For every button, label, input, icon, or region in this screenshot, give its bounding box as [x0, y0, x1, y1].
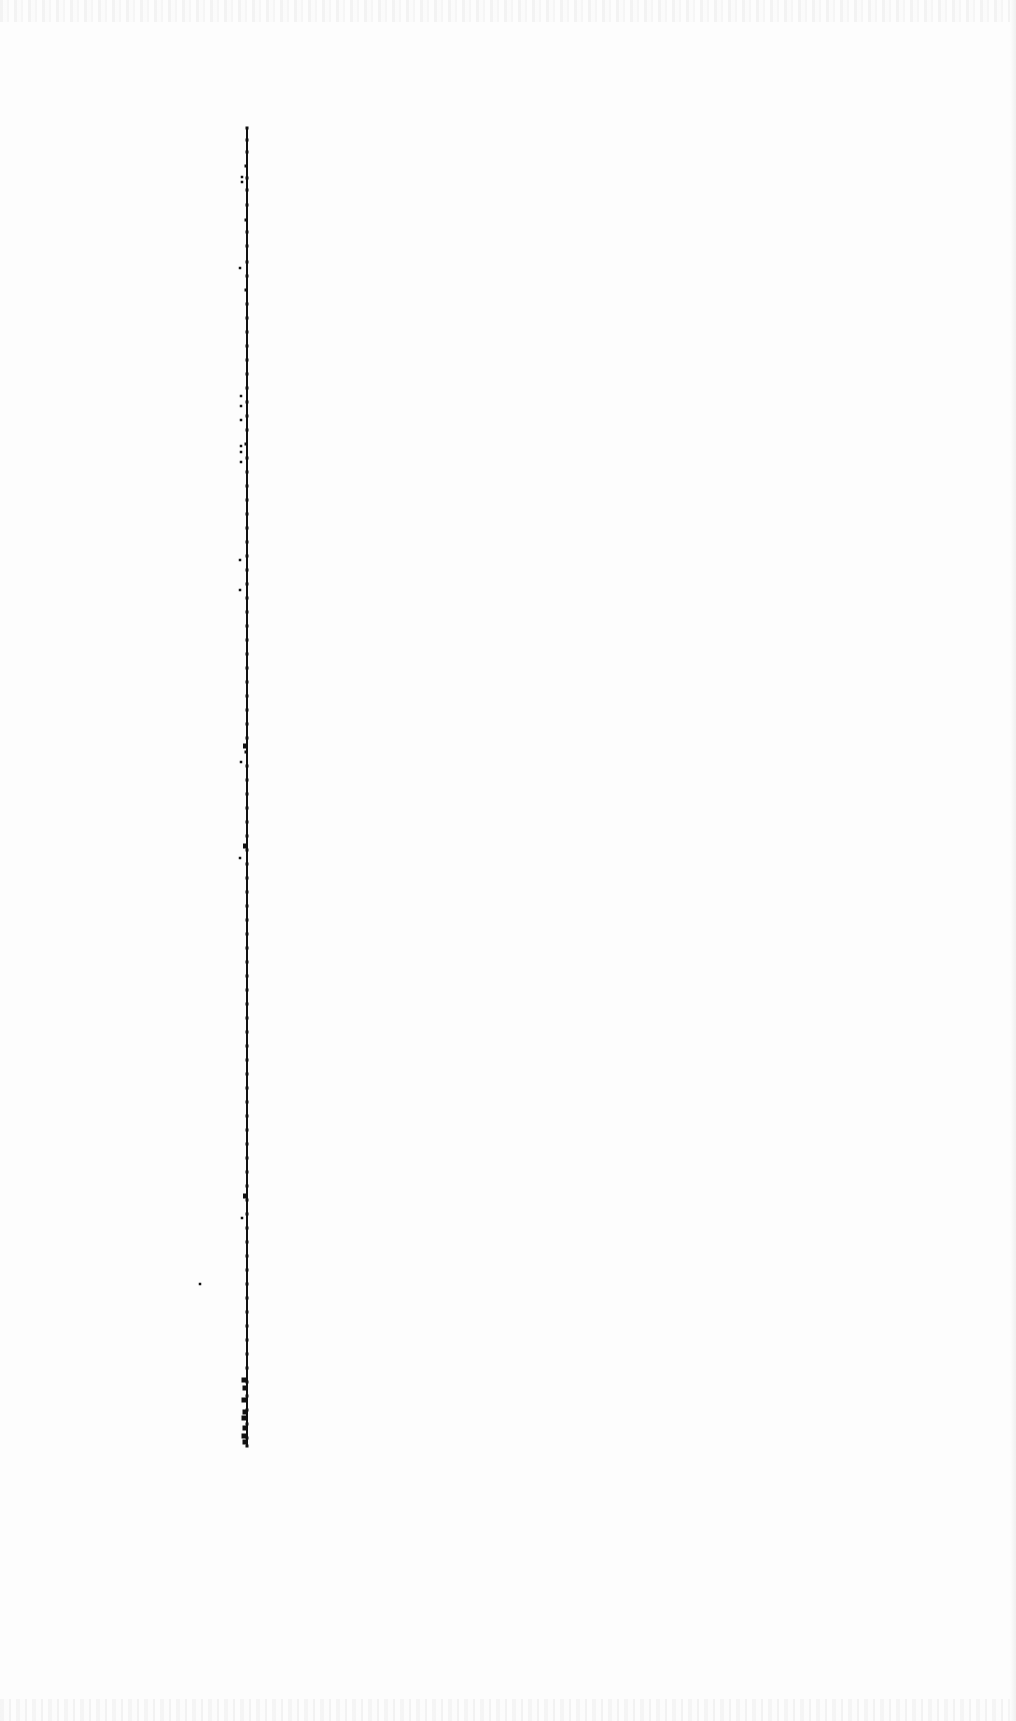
data-point [246, 1339, 249, 1342]
data-point [246, 975, 249, 978]
data-point [246, 1199, 249, 1202]
data-point [246, 1353, 249, 1356]
data-point [240, 761, 243, 764]
data-point [246, 204, 249, 207]
data-point [246, 709, 249, 712]
data-point [246, 723, 249, 726]
data-point [246, 513, 249, 516]
data-point [246, 177, 249, 180]
data-point [241, 1217, 244, 1220]
data-point [246, 415, 249, 418]
data-point [245, 751, 248, 754]
data-point [240, 405, 243, 408]
data-point [246, 961, 249, 964]
data-point [246, 471, 249, 474]
data-point [246, 1269, 249, 1272]
data-point [243, 1440, 248, 1445]
data-point [239, 267, 242, 270]
data-point [246, 1171, 249, 1174]
data-point [246, 261, 249, 264]
data-point [246, 245, 249, 248]
data-point [246, 625, 249, 628]
data-point [246, 1311, 249, 1314]
data-point [246, 387, 249, 390]
data-point [240, 395, 243, 398]
data-point [246, 807, 249, 810]
data-point [246, 1395, 249, 1398]
data-point [246, 317, 249, 320]
data-point [246, 877, 249, 880]
data-point [246, 1255, 249, 1258]
data-point [246, 779, 249, 782]
data-point [246, 1297, 249, 1300]
data-point [246, 359, 249, 362]
data-point [246, 919, 249, 922]
data-point [245, 289, 248, 292]
data-point [246, 541, 249, 544]
data-point [240, 445, 243, 448]
data-point [239, 857, 242, 860]
data-point [246, 1157, 249, 1160]
data-point [246, 1445, 249, 1448]
data-point [246, 1283, 249, 1286]
data-point [242, 1416, 247, 1421]
data-point [243, 1386, 248, 1391]
data-point [246, 667, 249, 670]
data-point [246, 345, 249, 348]
data-point [246, 1073, 249, 1076]
data-point [246, 835, 249, 838]
data-point [242, 1378, 247, 1383]
data-point [243, 1426, 248, 1431]
data-point [246, 189, 249, 192]
data-point [245, 219, 248, 222]
data-point [246, 1031, 249, 1034]
data-point [246, 303, 249, 306]
data-point [246, 1101, 249, 1104]
data-point [246, 849, 249, 852]
data-point [246, 947, 249, 950]
strip-plot [0, 0, 1016, 1721]
data-point [243, 1410, 248, 1415]
data-point [246, 989, 249, 992]
data-point [239, 589, 242, 592]
data-point [245, 165, 248, 168]
data-point [239, 559, 242, 562]
data-point [246, 737, 249, 740]
data-point [246, 695, 249, 698]
data-point [246, 127, 249, 130]
data-point [246, 1129, 249, 1132]
data-point [246, 863, 249, 866]
data-point [246, 569, 249, 572]
data-point [246, 597, 249, 600]
data-point [246, 933, 249, 936]
data-point [246, 485, 249, 488]
data-point [246, 1143, 249, 1146]
data-point [246, 373, 249, 376]
data-point [246, 639, 249, 642]
data-point [243, 744, 247, 749]
data-point [243, 844, 247, 849]
data-point [246, 905, 249, 908]
data-point [246, 231, 249, 234]
data-point [246, 499, 249, 502]
data-point [246, 527, 249, 530]
data-point [240, 461, 243, 464]
data-point [241, 176, 244, 179]
data-point [246, 765, 249, 768]
data-point [246, 1003, 249, 1006]
data-point [246, 151, 249, 154]
data-point [246, 1423, 249, 1426]
data-point [246, 1045, 249, 1048]
data-point [246, 1017, 249, 1020]
data-point [246, 583, 249, 586]
data-point [241, 181, 244, 184]
data-point [246, 1059, 249, 1062]
data-point [246, 401, 249, 404]
data-point [246, 275, 249, 278]
data-point [246, 1241, 249, 1244]
data-point [246, 331, 249, 334]
data-point [245, 443, 248, 446]
data-point [240, 451, 243, 454]
data-point [246, 821, 249, 824]
series-left-outliers [199, 176, 244, 1286]
